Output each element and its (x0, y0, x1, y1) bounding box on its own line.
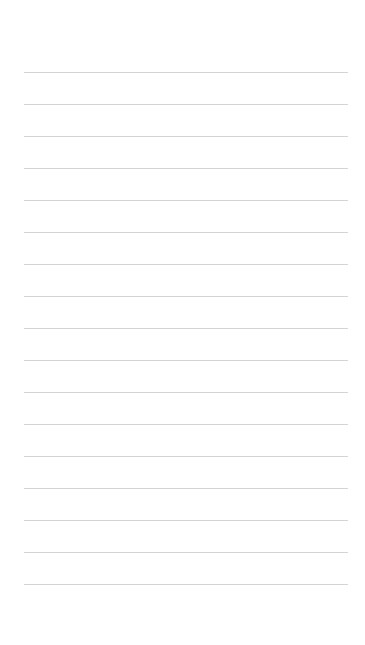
ruled-line (24, 168, 348, 169)
lined-paper-sheet (0, 0, 365, 645)
ruled-line (24, 360, 348, 361)
ruled-line (24, 328, 348, 329)
ruled-line (24, 424, 348, 425)
ruled-line (24, 200, 348, 201)
ruled-line (24, 488, 348, 489)
ruled-line (24, 232, 348, 233)
ruled-line (24, 520, 348, 521)
ruled-line (24, 584, 348, 585)
ruled-line (24, 456, 348, 457)
ruled-line (24, 104, 348, 105)
ruled-line (24, 296, 348, 297)
ruled-line (24, 264, 348, 265)
ruled-line (24, 136, 348, 137)
ruled-line (24, 552, 348, 553)
ruled-line (24, 392, 348, 393)
ruled-line (24, 72, 348, 73)
